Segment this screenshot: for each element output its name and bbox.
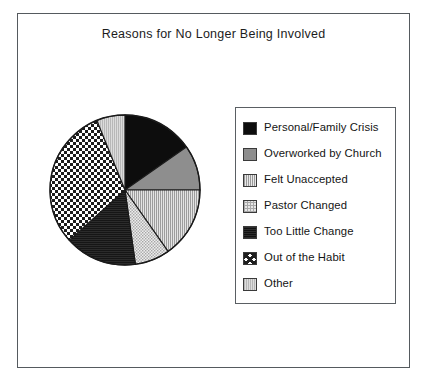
legend-swatch-icon: [243, 278, 257, 291]
legend-item-label: Pastor Changed: [264, 200, 347, 211]
legend-item-label: Too Little Change: [264, 226, 354, 237]
chart-frame: Reasons for No Longer Being Involved: [17, 13, 410, 368]
legend-swatch-icon: [243, 174, 257, 187]
legend-swatch-icon: [243, 226, 257, 239]
legend-item-other[interactable]: Other: [236, 271, 395, 297]
legend-item-label: Other: [264, 278, 293, 289]
legend-swatch-icon: [243, 122, 257, 135]
legend-swatch-icon: [243, 252, 257, 265]
pie-chart-svg: [46, 109, 206, 275]
legend-item-pastor-changed[interactable]: Pastor Changed: [236, 193, 395, 219]
legend-item-label: Overworked by Church: [264, 148, 382, 159]
legend-item-overworked-by-church[interactable]: Overworked by Church: [236, 141, 395, 167]
legend-item-felt-unaccepted[interactable]: Felt Unaccepted: [236, 167, 395, 193]
legend-item-label: Personal/Family Crisis: [264, 122, 379, 133]
legend-swatch-icon: [243, 200, 257, 213]
legend-item-too-little-change[interactable]: Too Little Change: [236, 219, 395, 245]
legend-item-label: Felt Unaccepted: [264, 174, 348, 185]
chart-legend: Personal/Family Crisis Overworked by Chu…: [235, 107, 396, 304]
legend-item-out-of-the-habit[interactable]: Out of the Habit: [236, 245, 395, 271]
legend-item-label: Out of the Habit: [264, 252, 345, 263]
pie-chart: [46, 109, 206, 275]
pie-slices: [50, 115, 200, 265]
legend-swatch-icon: [243, 148, 257, 161]
page-title: Reasons for No Longer Being Involved: [18, 27, 409, 41]
legend-item-personal-family-crisis[interactable]: Personal/Family Crisis: [236, 115, 395, 141]
